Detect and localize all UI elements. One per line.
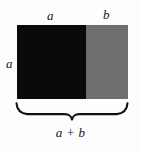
composite-rectangle bbox=[17, 25, 128, 99]
label-left-height-a: a bbox=[6, 57, 13, 70]
label-total-width: a + b bbox=[0, 126, 141, 139]
underbrace-icon bbox=[10, 99, 134, 123]
label-top-segment-b: b bbox=[103, 8, 110, 21]
rectangle-segment-a bbox=[17, 25, 86, 99]
geometry-figure: a b a a + b bbox=[0, 0, 141, 153]
label-top-segment-a: a bbox=[47, 9, 54, 22]
rectangle-segment-b bbox=[86, 25, 129, 99]
